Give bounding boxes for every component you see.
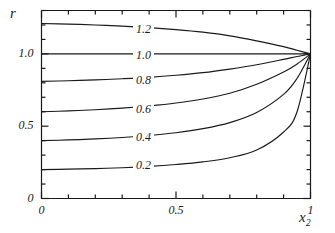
chart-figure: r x2 00.51.000.511.21.00.80.60.40.2 (0, 0, 335, 233)
curves (42, 24, 311, 170)
curve-0.8 (42, 54, 311, 81)
x-tick-label-1: 1 (308, 204, 314, 216)
curve-label-0.6: 0.6 (133, 103, 154, 115)
curve-label-0.2: 0.2 (133, 159, 154, 171)
y-tick-label-0: 0 (28, 192, 34, 204)
curve-0.4 (42, 54, 311, 141)
y-tick-label-0.5: 0.5 (19, 119, 34, 131)
curve-1.2 (42, 24, 311, 54)
x-tick-label-0.5: 0.5 (169, 204, 184, 216)
y-tick-label-1.0: 1.0 (19, 47, 34, 59)
curve-label-1.0: 1.0 (133, 49, 154, 61)
curve-0.2 (42, 54, 311, 170)
x-tick-label-0: 0 (39, 204, 45, 216)
plot-area (0, 0, 335, 233)
curve-label-0.4: 0.4 (133, 131, 154, 143)
curve-label-0.8: 0.8 (133, 74, 154, 86)
curve-label-1.2: 1.2 (133, 23, 154, 35)
